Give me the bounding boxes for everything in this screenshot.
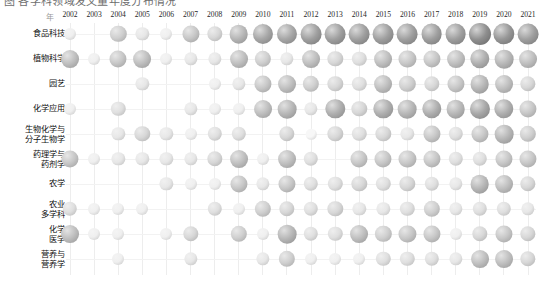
bubble xyxy=(112,253,124,265)
column-header-2011: 2011 xyxy=(279,10,294,19)
bubble xyxy=(521,202,534,215)
column-header-2005: 2005 xyxy=(135,10,150,19)
bubble xyxy=(61,150,78,167)
bubble xyxy=(375,226,391,242)
bubble xyxy=(112,127,125,140)
bubble xyxy=(352,127,366,141)
bubble xyxy=(182,25,199,42)
bubble xyxy=(423,125,440,142)
bubble xyxy=(520,176,535,191)
column-header-2002: 2002 xyxy=(62,10,77,19)
bubble xyxy=(495,125,514,144)
row-label-4: 生物化学与 分子生物学 xyxy=(3,125,65,144)
bubble xyxy=(183,226,198,241)
column-header-2008: 2008 xyxy=(207,10,222,19)
bubble xyxy=(136,203,148,215)
bubble xyxy=(423,150,440,167)
bubble xyxy=(63,202,77,216)
bubble xyxy=(327,126,342,141)
bubble xyxy=(470,175,489,194)
bubble xyxy=(306,129,317,140)
bubble xyxy=(495,225,512,242)
bubble xyxy=(160,53,172,65)
bubble xyxy=(495,250,513,268)
bubble xyxy=(278,225,297,244)
bubble xyxy=(232,127,246,141)
column-header-2007: 2007 xyxy=(183,10,198,19)
bubble xyxy=(112,228,124,240)
bubble xyxy=(349,24,370,45)
bubble xyxy=(352,176,367,191)
bubble xyxy=(325,24,346,45)
bubble xyxy=(111,102,125,116)
bubble xyxy=(519,150,536,167)
bubble xyxy=(257,153,269,165)
bubble xyxy=(184,52,197,65)
bubble xyxy=(278,175,295,192)
bubble xyxy=(493,23,514,44)
bubble xyxy=(374,75,392,93)
bubble xyxy=(446,100,465,119)
top-caption-sliver: 图 各学科领域发文量年度分布情况 xyxy=(0,0,543,7)
bubble xyxy=(470,99,490,119)
bubble xyxy=(110,26,126,42)
gridline-horizontal xyxy=(66,259,536,260)
bubble xyxy=(448,127,462,141)
bubble xyxy=(110,50,127,67)
bubble xyxy=(257,228,269,240)
column-header-2006: 2006 xyxy=(159,10,174,19)
column-header-2013: 2013 xyxy=(328,10,343,19)
bubble xyxy=(184,152,197,165)
bubble xyxy=(61,50,79,68)
bubble xyxy=(376,252,390,266)
top-caption-text: 图 各学科领域发文量年度分布情况 xyxy=(4,0,177,7)
bubble xyxy=(64,103,76,115)
row-label-1: 植物科学 xyxy=(3,54,65,64)
bubble xyxy=(304,152,318,166)
bubble xyxy=(495,175,513,193)
bubble xyxy=(399,225,416,242)
bubble xyxy=(520,76,535,91)
bubble xyxy=(135,126,150,141)
bubble xyxy=(350,225,368,243)
bubble xyxy=(185,128,197,140)
bubble xyxy=(473,202,487,216)
row-label-7: 农业 多学科 xyxy=(3,200,65,219)
bubble xyxy=(445,24,466,45)
column-header-2021: 2021 xyxy=(520,10,535,19)
column-header-2004: 2004 xyxy=(111,10,126,19)
bubble xyxy=(399,150,416,167)
bubble xyxy=(278,75,296,93)
bubble xyxy=(184,252,197,265)
bubble xyxy=(278,100,297,119)
bubble xyxy=(207,127,221,141)
column-header-2009: 2009 xyxy=(231,10,246,19)
corner-year-marker: 年 xyxy=(46,11,54,22)
bubble xyxy=(207,202,221,216)
bubble xyxy=(304,102,317,115)
bubble xyxy=(327,76,342,91)
bubble xyxy=(233,103,245,115)
bubble xyxy=(255,51,271,67)
bubble-matrix-chart: 年 20022003200420052006200720082009201020… xyxy=(0,7,543,281)
bubble xyxy=(471,250,489,268)
gridline-horizontal xyxy=(66,109,536,110)
bubble xyxy=(447,50,465,68)
bubble xyxy=(470,75,489,94)
bubble xyxy=(373,24,394,45)
bubble xyxy=(397,24,418,45)
bubble xyxy=(401,127,414,140)
bubble xyxy=(303,76,319,92)
bubble xyxy=(374,50,392,68)
bubble xyxy=(160,152,173,165)
bubble xyxy=(233,203,245,215)
bubble xyxy=(185,178,197,190)
plot-area: 年 20022003200420052006200720082009201020… xyxy=(0,7,543,281)
column-header-2015: 2015 xyxy=(376,10,391,19)
bubble xyxy=(351,150,368,167)
bubble xyxy=(304,227,318,241)
bubble xyxy=(207,26,222,41)
bubble xyxy=(377,202,390,215)
column-header-2003: 2003 xyxy=(87,10,102,19)
bubble xyxy=(136,77,149,90)
